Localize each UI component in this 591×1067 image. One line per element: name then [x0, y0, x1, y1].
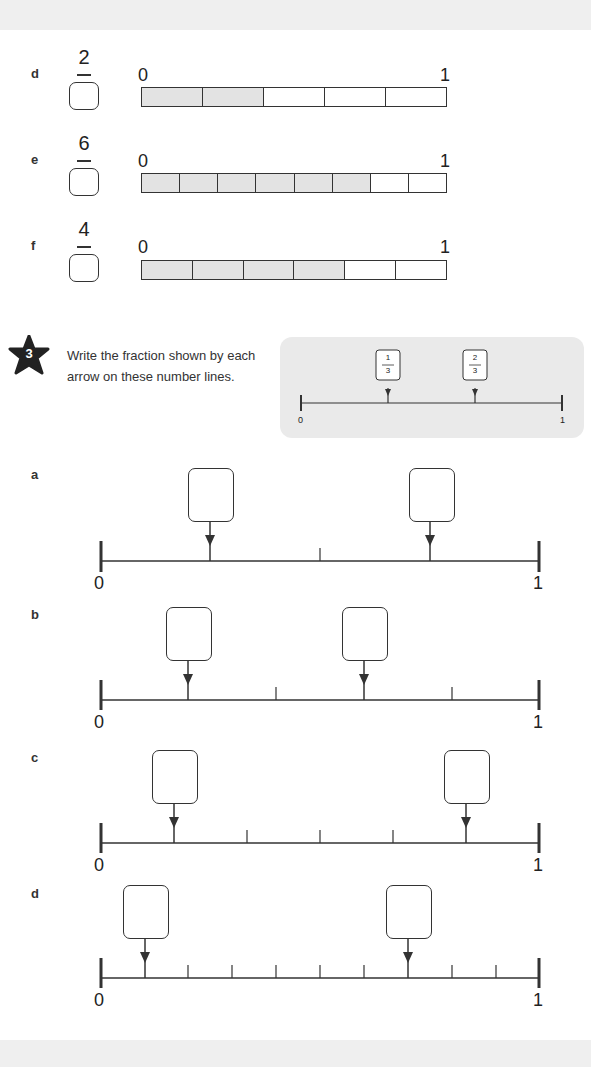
strip-end-label: 1 — [440, 151, 450, 172]
example-end-label: 1 — [560, 415, 565, 425]
fraction-bar — [77, 246, 91, 248]
numerator: 6 — [67, 132, 101, 155]
strip-cell-shaded — [333, 174, 371, 192]
strip-cell-shaded — [142, 88, 203, 106]
question-label: f — [31, 238, 35, 253]
strip-cell — [386, 88, 446, 106]
question-label: d — [31, 66, 39, 81]
fraction-strip — [141, 87, 447, 107]
numerator: 4 — [67, 218, 101, 241]
strip-start-label: 0 — [138, 151, 148, 172]
strip-cell — [396, 261, 446, 279]
answer-box[interactable] — [166, 607, 212, 661]
strip-start-label: 0 — [138, 237, 148, 258]
denominator-answer-box[interactable] — [69, 254, 99, 282]
strip-cell-shaded — [180, 174, 218, 192]
answer-box[interactable] — [409, 468, 455, 522]
question-number-star-icon: 3 — [8, 335, 50, 377]
example-numerator-2: 2 — [471, 353, 479, 362]
line-end-label: 1 — [533, 990, 543, 1011]
strip-cell-shaded — [244, 261, 295, 279]
strip-cell — [409, 174, 446, 192]
fraction-strip — [141, 173, 447, 193]
strip-cell-shaded — [142, 174, 180, 192]
number-line-question-b: b 0 1 — [0, 590, 591, 730]
number-line-question-c: c 0 1 — [0, 730, 591, 870]
fraction-bar — [77, 160, 91, 162]
number-line — [0, 440, 591, 590]
number-line-question-a: a 0 1 — [0, 440, 591, 590]
question-number: 3 — [8, 346, 50, 361]
strip-cell — [325, 88, 386, 106]
strip-cell-shaded — [218, 174, 256, 192]
answer-box[interactable] — [342, 607, 388, 661]
strip-end-label: 1 — [440, 237, 450, 258]
fraction-strip — [141, 260, 447, 280]
strip-cell-shaded — [203, 88, 264, 106]
question-instruction: Write the fraction shown by each arrow o… — [67, 345, 277, 387]
example-denominator-1: 3 — [384, 366, 392, 375]
number-line-question-d: d 0 1 — [0, 870, 591, 1020]
strip-cell-shaded — [294, 261, 345, 279]
answer-box[interactable] — [444, 750, 490, 804]
example-numerator-1: 1 — [384, 353, 392, 362]
numerator: 2 — [67, 46, 101, 69]
strip-cell-shaded — [142, 261, 193, 279]
example-start-label: 0 — [298, 415, 303, 425]
strip-cell — [264, 88, 325, 106]
answer-box[interactable] — [152, 750, 198, 804]
line-start-label: 0 — [94, 990, 104, 1011]
page-bottom-margin — [0, 1040, 591, 1067]
strip-cell-shaded — [256, 174, 294, 192]
answer-box[interactable] — [123, 885, 169, 939]
number-line — [0, 870, 591, 1020]
example-panel: 1 3 2 3 0 1 — [280, 337, 584, 438]
strip-cell — [371, 174, 409, 192]
strip-cell — [345, 261, 396, 279]
answer-box[interactable] — [188, 468, 234, 522]
denominator-answer-box[interactable] — [69, 82, 99, 110]
strip-cell-shaded — [193, 261, 244, 279]
number-line — [0, 590, 591, 730]
strip-cell-shaded — [295, 174, 333, 192]
fraction-bar — [77, 74, 91, 76]
number-line — [0, 730, 591, 870]
question-label: e — [31, 152, 38, 167]
denominator-answer-box[interactable] — [69, 168, 99, 196]
answer-box[interactable] — [386, 885, 432, 939]
page-top-margin — [0, 0, 591, 30]
strip-start-label: 0 — [138, 65, 148, 86]
example-denominator-2: 3 — [471, 366, 479, 375]
strip-end-label: 1 — [440, 65, 450, 86]
